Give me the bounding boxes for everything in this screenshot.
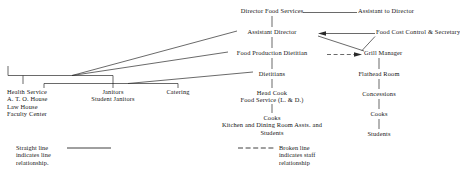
node-grill-manager: Grill Manager <box>364 49 402 56</box>
diagonal-junction-to-foodprod <box>72 52 228 76</box>
arrowhead-left-assistant-director <box>318 31 326 35</box>
node-director-food-services: Director Food Services <box>241 7 304 14</box>
legend-straight-line: Straight line indicates line relationshi… <box>16 144 51 166</box>
legend-broken-line: Broken line indicates staff relationship <box>279 144 316 166</box>
arrowhead-right-grill-manager <box>354 52 362 56</box>
node-food-cost-control-secretary: Food Cost Control & Secretary <box>376 28 460 35</box>
node-assistant-to-director: Assistant to Director <box>358 7 414 14</box>
node-assistant-director: Assistant Director <box>247 28 296 35</box>
node-dietitians: Dietitians <box>259 70 285 77</box>
node-cooks-center: Cooks Kitchen and Dining Room Assts. and… <box>222 114 322 136</box>
node-cooks-right: Cooks <box>370 110 387 117</box>
node-janitors: Janitors Student Janitors <box>91 88 134 103</box>
node-food-production-dietitian: Food Production Dietitian <box>237 49 308 56</box>
line-assistant-to-grill-diagonal <box>318 36 364 51</box>
node-health-service-group: Health Service A. T. O. House Law House … <box>7 88 48 118</box>
node-students-right: Students <box>367 130 390 137</box>
node-flathead-room: Flathead Room <box>358 70 399 77</box>
node-concessions: Concessions <box>362 90 396 97</box>
diagonal-inner-to-dietitians <box>128 72 253 84</box>
diagonal-junction-to-assistant-director <box>72 31 237 76</box>
node-head-cook-food-service: Head Cook Food Service (L. & D.) <box>241 89 304 104</box>
node-catering: Catering <box>166 88 189 95</box>
